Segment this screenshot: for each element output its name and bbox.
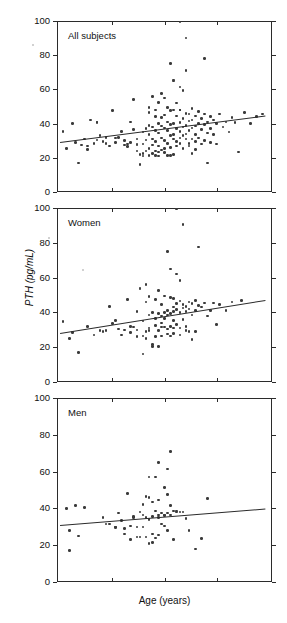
- data-point: [166, 468, 169, 471]
- data-point: [65, 507, 68, 510]
- data-point: [172, 538, 175, 541]
- data-point: [108, 523, 111, 526]
- y-axis-tick-right: [272, 508, 276, 509]
- panel-title: Men: [68, 407, 86, 418]
- data-point: [200, 537, 203, 540]
- data-point: [194, 548, 197, 551]
- y-axis-tick-right: [272, 582, 276, 583]
- y-axis-tick: [53, 582, 57, 583]
- y-axis-tick-label: 60: [19, 467, 50, 477]
- data-point: [166, 529, 169, 532]
- x-axis-tick-top: [217, 398, 218, 402]
- y-axis-tick-label: 100: [19, 393, 50, 403]
- y-axis-tick-label: 0: [19, 577, 50, 587]
- data-point: [206, 497, 209, 500]
- y-axis-tick: [53, 508, 57, 509]
- data-point: [157, 461, 160, 464]
- x-axis-tick: [112, 578, 113, 582]
- paper-speck: [82, 269, 84, 271]
- y-axis-tick-right: [272, 472, 276, 473]
- y-axis-tick-label: 20: [19, 540, 50, 550]
- data-point: [123, 527, 126, 530]
- data-point: [129, 538, 132, 541]
- y-axis-tick-label: 80: [19, 430, 50, 440]
- paper-speck: [32, 44, 34, 46]
- y-axis-tick: [53, 398, 57, 399]
- data-point: [151, 501, 154, 504]
- data-point: [169, 504, 172, 507]
- y-axis-tick-right: [272, 398, 276, 399]
- data-point: [114, 526, 117, 529]
- y-axis-tick-right: [272, 545, 276, 546]
- plot-frame: [57, 398, 272, 582]
- x-axis-tick-top: [165, 398, 166, 402]
- y-axis-tick: [53, 545, 57, 546]
- data-point: [117, 512, 120, 515]
- y-axis-tick: [53, 435, 57, 436]
- y-axis-tick-right: [272, 435, 276, 436]
- data-point: [74, 504, 77, 507]
- y-axis-tick: [53, 472, 57, 473]
- x-axis-tick: [217, 578, 218, 582]
- x-axis-tick: [165, 578, 166, 582]
- panel-men: 100806040200Men: [0, 0, 287, 623]
- data-point: [166, 493, 169, 496]
- pth-age-scatter-figure: PTH (pg/mL) Age (years) 100806040200All …: [0, 0, 287, 623]
- y-axis-tick-label: 40: [19, 503, 50, 513]
- data-point: [83, 506, 86, 509]
- data-point: [151, 541, 154, 544]
- data-point: [129, 525, 132, 528]
- data-point: [154, 537, 157, 540]
- data-point: [163, 486, 166, 489]
- data-point: [68, 529, 71, 532]
- data-point: [126, 492, 129, 495]
- data-point: [169, 450, 172, 453]
- paper-speck: [48, 237, 50, 239]
- data-point: [68, 549, 71, 552]
- x-axis-tick-top: [112, 398, 113, 402]
- data-point: [163, 525, 166, 528]
